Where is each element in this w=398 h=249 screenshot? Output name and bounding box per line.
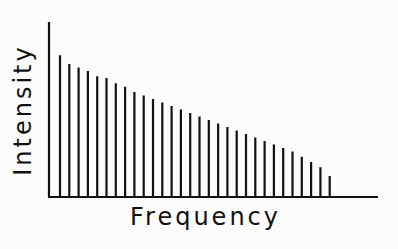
y-axis-label: Intensity <box>9 25 37 195</box>
x-axis-label: Frequency <box>130 203 281 231</box>
spectrum-lines <box>60 55 330 197</box>
